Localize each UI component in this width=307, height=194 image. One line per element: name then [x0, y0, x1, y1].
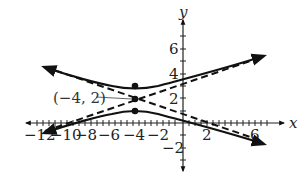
x-axis-label: x	[289, 114, 298, 132]
vertex-upper-point	[132, 83, 139, 90]
x-tick-label: −4	[123, 126, 145, 144]
x-tick-label: −8	[75, 126, 97, 144]
hyperbola-graph: −12 −10 −8 −6 −4 −2 2 6 6 4 2 −2 x y (−4…	[0, 0, 307, 194]
key-points	[132, 83, 139, 115]
upper-branch	[44, 56, 264, 89]
center-point	[132, 96, 139, 103]
x-tick-label: −6	[98, 126, 120, 144]
y-tick-label: −2	[162, 139, 184, 157]
y-tick-label: 2	[169, 90, 179, 108]
y-tick-label: 6	[169, 40, 179, 58]
y-axis-label: y	[178, 3, 188, 21]
vertex-lower-point	[132, 108, 139, 115]
center-annotation: (−4, 2)	[53, 89, 106, 107]
